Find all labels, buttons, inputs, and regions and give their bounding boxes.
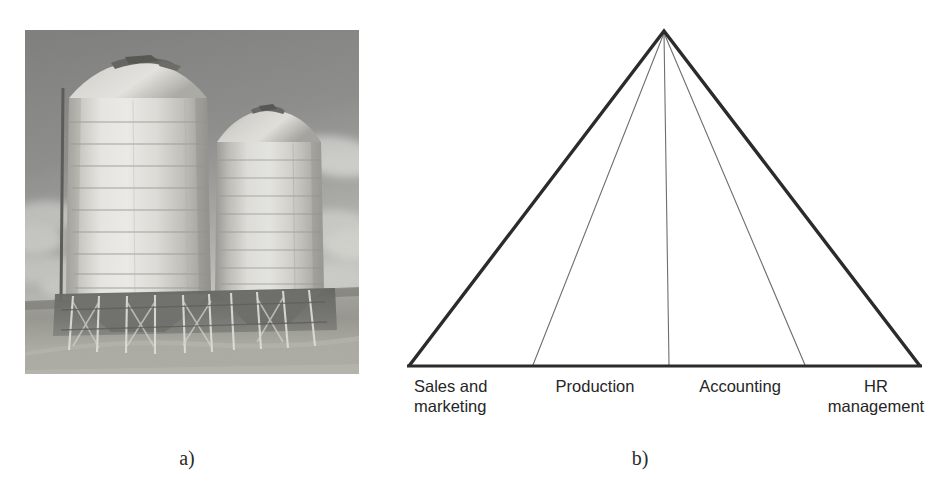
figure-root: a) Sales and marketing Produ [0, 0, 948, 501]
caption-panel-b: b) [540, 447, 740, 470]
segment-label-accounting: Accounting [672, 376, 808, 396]
pyramid-drawing [380, 0, 948, 380]
pyramid-svg [380, 0, 948, 380]
photo-content [25, 30, 359, 374]
divider-line-2 [664, 33, 669, 365]
segment-label-sales-and-marketing: Sales and marketing [414, 376, 524, 416]
photo-vector-rendering [25, 30, 359, 374]
divider-line-1 [533, 33, 664, 365]
caption-panel-a: a) [0, 447, 374, 470]
panel-b-pyramid-diagram: Sales and marketing Production Accountin… [380, 0, 948, 501]
segment-label-hr-management: HR management [810, 376, 942, 416]
grain-silos-photo [25, 30, 359, 374]
pyramid-segment-labels: Sales and marketing Production Accountin… [380, 372, 948, 418]
silo-divider-lines [533, 33, 805, 365]
segment-label-production: Production [527, 376, 663, 396]
divider-line-3 [664, 33, 805, 365]
